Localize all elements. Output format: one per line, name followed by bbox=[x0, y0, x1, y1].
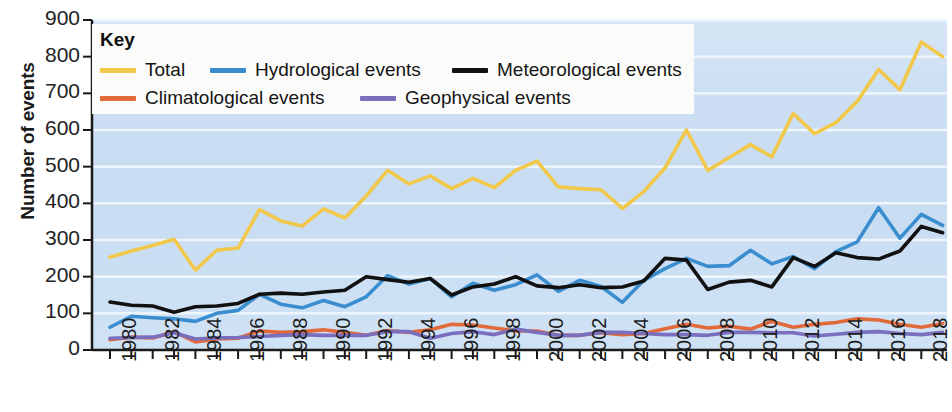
x-tick-label: 1994 bbox=[417, 318, 440, 363]
legend-swatch-icon bbox=[360, 96, 396, 101]
legend-label: Geophysical events bbox=[405, 87, 571, 109]
x-tick-label: 2010 bbox=[759, 318, 782, 363]
legend-label: Meteorological events bbox=[497, 59, 682, 81]
x-tick-label: 2006 bbox=[673, 318, 696, 363]
x-tick-label: 2008 bbox=[716, 318, 739, 363]
y-tick-label: 900 bbox=[26, 6, 80, 30]
legend-item-climatological-events: Climatological events bbox=[100, 87, 325, 109]
y-tick-label: 100 bbox=[26, 299, 80, 323]
x-tick-label: 1992 bbox=[374, 318, 397, 363]
y-tick-label: 0 bbox=[26, 336, 80, 360]
x-tick-label: 2014 bbox=[844, 318, 867, 363]
y-tick-label: 200 bbox=[26, 263, 80, 287]
x-tick-label: 2016 bbox=[887, 318, 910, 363]
x-tick-label: 1998 bbox=[502, 318, 525, 363]
legend-item-meteorological-events: Meteorological events bbox=[452, 59, 682, 81]
y-tick-label: 500 bbox=[26, 153, 80, 177]
y-tick-label: 800 bbox=[26, 43, 80, 67]
y-tick-label: 700 bbox=[26, 79, 80, 103]
legend-swatch-icon bbox=[100, 68, 136, 73]
x-tick-label: 2012 bbox=[801, 318, 824, 363]
x-tick-label: 1982 bbox=[161, 318, 184, 363]
x-tick-label: 1980 bbox=[118, 318, 141, 363]
legend-swatch-icon bbox=[100, 96, 136, 101]
x-tick-label: 1986 bbox=[246, 318, 269, 363]
legend-item-hydrological-events: Hydrological events bbox=[210, 59, 421, 81]
x-tick-label: 1990 bbox=[332, 318, 355, 363]
x-tick-label: 2018 bbox=[929, 318, 952, 363]
legend-swatch-icon bbox=[452, 68, 488, 73]
y-tick-label: 600 bbox=[26, 116, 80, 140]
legend-label: Hydrological events bbox=[255, 59, 421, 81]
legend-title: Key bbox=[100, 29, 135, 51]
x-tick-label: 2004 bbox=[630, 318, 653, 363]
legend-item-geophysical-events: Geophysical events bbox=[360, 87, 571, 109]
y-tick-label: 400 bbox=[26, 189, 80, 213]
legend-item-total: Total bbox=[100, 59, 185, 81]
x-tick-label: 1984 bbox=[203, 318, 226, 363]
x-tick-label: 2002 bbox=[588, 318, 611, 363]
x-tick-label: 2000 bbox=[545, 318, 568, 363]
chart-legend: Key TotalHydrological eventsMeteorologic… bbox=[92, 24, 694, 114]
legend-label: Climatological events bbox=[145, 87, 325, 109]
x-tick-label: 1988 bbox=[289, 318, 312, 363]
legend-swatch-icon bbox=[210, 68, 246, 73]
y-tick-label: 300 bbox=[26, 226, 80, 250]
legend-label: Total bbox=[145, 59, 185, 81]
x-tick-label: 1996 bbox=[460, 318, 483, 363]
